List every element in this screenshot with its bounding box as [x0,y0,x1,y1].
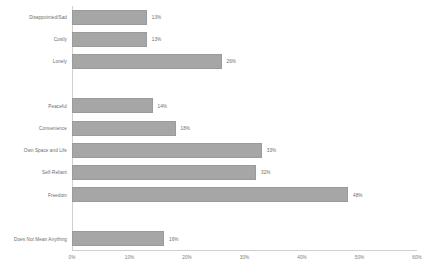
category-label: Peaceful [48,103,67,108]
bar [72,121,176,136]
bar-row: Freedom48% [72,187,417,202]
category-label: Does Not Mean Anything [14,236,67,241]
category-label: Convenience [39,126,67,131]
bar [72,54,222,69]
category-label: Costly [54,37,67,42]
bar [72,98,153,113]
bar [72,10,147,25]
category-label: Own Space and Life [24,148,67,153]
bar [72,231,164,246]
bar-value-label: 13% [152,15,162,20]
category-label: Disappointed/Sad [29,15,67,20]
bar-value-label: 14% [158,103,168,108]
bar-row: Lonely26% [72,54,417,69]
plot-area: Disappointed/Sad13%Costly13%Lonely26%Pea… [72,6,417,250]
category-label: Self-Reliant [42,170,67,175]
bar-row: Convenience18% [72,121,417,136]
bar-value-label: 48% [353,192,363,197]
bar [72,32,147,47]
bar-row: Costly13% [72,32,417,47]
bar-row: Self-Reliant32% [72,165,417,180]
x-axis-tick-label: 0% [69,255,76,260]
x-axis-tick-label: 10% [125,255,135,260]
category-label: Lonely [53,59,67,64]
x-axis-line [72,250,417,251]
bar-row: Peaceful14% [72,98,417,113]
x-axis-tick-label: 60% [412,255,422,260]
bar-value-label: 26% [227,59,237,64]
bar [72,165,256,180]
bar [72,187,348,202]
category-label: Freedom [48,192,67,197]
bar [72,143,262,158]
bar-value-label: 33% [267,148,277,153]
bar-row: Does Not Mean Anything16% [72,231,417,246]
bar-value-label: 18% [181,126,191,131]
bar-row: Own Space and Life33% [72,143,417,158]
x-axis-tick-label: 30% [240,255,250,260]
bar-row: Disappointed/Sad13% [72,10,417,25]
bar-value-label: 32% [261,170,271,175]
bar-value-label: 16% [169,236,179,241]
x-axis-tick-label: 40% [297,255,307,260]
x-axis-tick-label: 50% [355,255,365,260]
x-axis-tick-label: 20% [182,255,192,260]
bar-chart: Disappointed/Sad13%Costly13%Lonely26%Pea… [0,0,437,274]
bar-value-label: 13% [152,37,162,42]
